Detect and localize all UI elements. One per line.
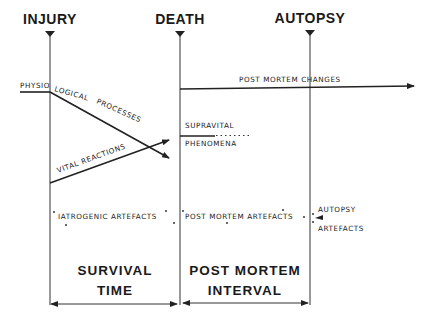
- supravital-label-2: PHENOMENA: [185, 139, 237, 148]
- survival-time-label-1: SURVIVAL: [77, 263, 152, 278]
- survival-time-label-2: TIME: [97, 283, 133, 298]
- iatrogenic-artefacts-label: IATROGENIC ARTEFACTS: [58, 212, 157, 221]
- milestone-injury-label: INJURY: [23, 11, 77, 27]
- autopsy-artefacts-label-1: AUTOPSY: [318, 205, 356, 214]
- post-mortem-changes-label: POST MORTEM CHANGES: [239, 75, 341, 84]
- supravital-label-1: SUPRAVITAL: [185, 121, 234, 130]
- physiological-label-2: LOGICAL: [53, 84, 89, 102]
- autopsy-artefacts-marks: [312, 213, 323, 223]
- milestone-death-label: DEATH: [155, 11, 205, 27]
- milestone-autopsy-label: AUTOPSY: [275, 10, 346, 26]
- forensic-timeline-diagram: INJURY DEATH AUTOPSY PHYSIO LOGICAL PROC…: [0, 0, 431, 321]
- post-mortem-artefacts-label: POST MORTEM ARTEFACTS: [185, 212, 293, 221]
- post-mortem-changes-arrow: [180, 86, 414, 89]
- pmi-label-2: INTERVAL: [208, 283, 282, 298]
- autopsy-artefacts-label-2: ARTEFACTS: [318, 224, 364, 233]
- physiological-label-1: PHYSIO: [20, 81, 50, 90]
- pmi-label-1: POST MORTEM: [189, 263, 301, 278]
